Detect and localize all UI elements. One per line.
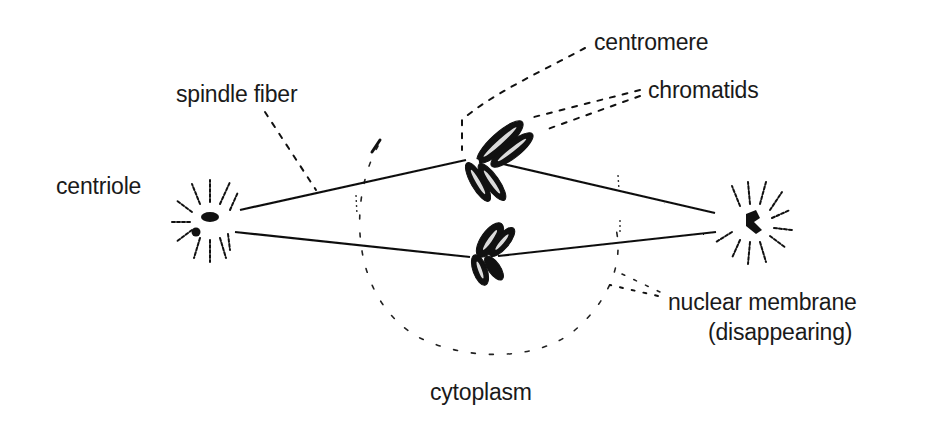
label-centromere: centromere <box>594 30 708 54</box>
spindle-fiber-lower-right <box>498 232 716 256</box>
spindle-fiber-upper-left <box>240 160 466 210</box>
label-spindle-fiber: spindle fiber <box>176 82 297 106</box>
membrane-fragment <box>356 195 357 215</box>
spindle-fiber-lower-left <box>235 232 470 257</box>
mitosis-diagram <box>0 0 946 436</box>
label-centriole: centriole <box>56 174 141 198</box>
centriole-left <box>172 180 238 262</box>
label-nuclear-membrane-status: (disappearing) <box>708 320 852 344</box>
centromere-dot <box>473 159 479 165</box>
centriole-right <box>716 182 792 264</box>
spindle-fiber-upper-right <box>503 164 715 213</box>
leader-chromatids-1 <box>530 90 640 118</box>
chromosome-upper <box>461 115 537 204</box>
label-nuclear-membrane: nuclear membrane <box>668 290 857 314</box>
label-chromatids: chromatids <box>648 78 759 102</box>
leader-nuclear-membrane <box>610 285 658 296</box>
chromosome-lower <box>468 218 519 287</box>
leader-lines <box>265 48 658 296</box>
leader-chromatids-2 <box>545 96 640 130</box>
leader-spindle-fiber <box>265 112 316 190</box>
membrane-fragment <box>618 175 619 190</box>
label-cytoplasm: cytoplasm <box>430 380 532 404</box>
